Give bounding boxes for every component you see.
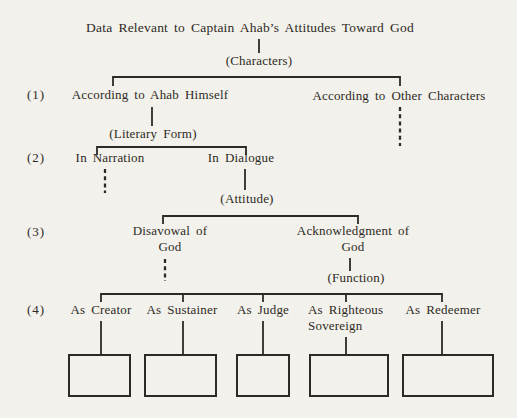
node-as-redeemer: As Redeemer bbox=[405, 302, 480, 318]
grouping-label-literary-form: (Literary Form) bbox=[109, 126, 196, 142]
level-marker-2: (2) bbox=[27, 150, 45, 166]
level-marker-3: (3) bbox=[27, 224, 45, 240]
empty-data-box-redeemer bbox=[402, 354, 494, 397]
empty-data-box-righteous-sovereign bbox=[309, 354, 389, 397]
level-marker-4: (4) bbox=[27, 302, 45, 318]
grouping-label-characters: (Characters) bbox=[226, 53, 293, 69]
node-as-creator: As Creator bbox=[70, 302, 131, 318]
grouping-label-attitude: (Attitude) bbox=[220, 191, 273, 207]
node-according-to-other-characters: According to Other Characters bbox=[312, 88, 485, 104]
bracket-level4 bbox=[101, 294, 442, 302]
node-acknowledgment-of-god: Acknowledgment of God bbox=[288, 223, 418, 255]
node-as-righteous-sovereign: As Righteous Sovereign bbox=[308, 302, 398, 334]
grouping-label-function: (Function) bbox=[328, 270, 385, 286]
bracket-level1 bbox=[113, 77, 400, 86]
node-in-narration: In Narration bbox=[76, 150, 145, 166]
empty-data-box-judge bbox=[236, 354, 290, 397]
level-marker-1: (1) bbox=[27, 87, 45, 103]
diagram-title: Data Relevant to Captain Ahab’s Attitude… bbox=[86, 20, 414, 36]
node-as-sustainer: As Sustainer bbox=[147, 302, 218, 318]
node-as-judge: As Judge bbox=[237, 302, 289, 318]
empty-data-box-sustainer bbox=[144, 354, 217, 397]
empty-data-box-creator bbox=[68, 354, 131, 397]
node-according-to-ahab-himself: According to Ahab Himself bbox=[72, 87, 229, 103]
node-disavowal-of-god: Disavowal of God bbox=[128, 223, 212, 255]
diagram-page: Data Relevant to Captain Ahab’s Attitude… bbox=[0, 0, 517, 418]
node-in-dialogue: In Dialogue bbox=[208, 150, 274, 166]
